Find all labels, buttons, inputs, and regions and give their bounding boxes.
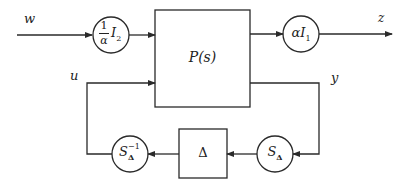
scaling-left-label: S −1 Δ xyxy=(112,143,148,165)
identity-subscript: 1 xyxy=(305,34,310,43)
scaling-subscript: Δ xyxy=(128,153,134,162)
alpha-symbol: α xyxy=(291,25,300,40)
fraction-numerator: 1 xyxy=(99,20,109,31)
uncertainty-label: Δ xyxy=(179,146,227,160)
z-label: z xyxy=(378,12,384,24)
scaling-letter: S xyxy=(267,144,276,159)
y-label: y xyxy=(331,71,338,84)
scaling-right-label: SΔ xyxy=(257,145,293,164)
fraction-denominator: α xyxy=(99,35,109,46)
inverse-superscript: −1 xyxy=(128,142,140,151)
scaling-letter: S xyxy=(119,145,128,159)
identity-symbol: I2 xyxy=(111,26,121,45)
w-label: w xyxy=(24,12,35,25)
plant-label: P(s) xyxy=(155,49,250,65)
plant-label-text: P(s) xyxy=(189,49,217,65)
scaling-subscript: Δ xyxy=(276,152,282,162)
output-scaling-label: αI1 xyxy=(283,26,319,46)
u-label: u xyxy=(70,69,78,82)
identity-subscript: 2 xyxy=(116,34,121,43)
input-scaling-label: 1 α I2 xyxy=(96,20,128,50)
